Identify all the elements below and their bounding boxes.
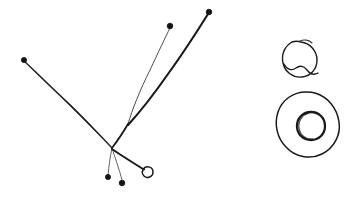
node-bottom-right-marker	[119, 180, 125, 186]
node-left-marker	[21, 57, 26, 62]
paper-background	[0, 0, 352, 205]
sketch-canvas	[0, 0, 352, 205]
node-top-right-marker	[206, 9, 212, 15]
node-bottom-left-marker	[105, 174, 110, 179]
loop-node-right-marker	[142, 167, 153, 178]
sketch-surface	[0, 0, 352, 205]
node-top-middle-marker	[167, 23, 173, 29]
